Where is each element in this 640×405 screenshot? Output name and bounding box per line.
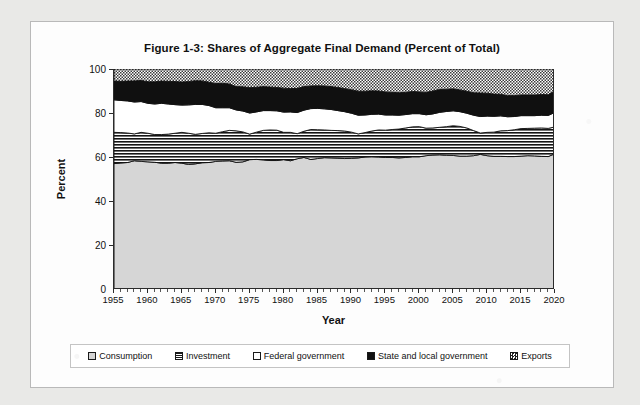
legend-item-consumption[interactable]: Consumption bbox=[88, 351, 152, 361]
x-minor-tick-mark bbox=[269, 289, 270, 292]
x-minor-tick-mark bbox=[378, 289, 379, 292]
legend-item-label: Exports bbox=[521, 351, 552, 361]
x-minor-tick-mark bbox=[262, 289, 263, 292]
x-tick-mark bbox=[317, 289, 318, 293]
x-tick-mark bbox=[452, 289, 453, 293]
x-minor-tick-mark bbox=[228, 289, 229, 292]
x-minor-tick-mark bbox=[459, 289, 460, 292]
stacked-area-series bbox=[114, 69, 554, 289]
y-tick-label: 60 bbox=[95, 152, 106, 163]
x-minor-tick-mark bbox=[534, 289, 535, 292]
x-tick-mark bbox=[147, 289, 148, 293]
x-minor-tick-mark bbox=[432, 289, 433, 292]
x-minor-tick-mark bbox=[507, 289, 508, 292]
y-tick-label: 80 bbox=[95, 108, 106, 119]
x-minor-tick-mark bbox=[255, 289, 256, 292]
x-minor-tick-mark bbox=[405, 289, 406, 292]
x-tick-mark bbox=[554, 289, 555, 293]
x-axis-title: Year bbox=[113, 314, 554, 326]
x-minor-tick-mark bbox=[425, 289, 426, 292]
x-tick-label: 1980 bbox=[272, 294, 293, 305]
y-axis-tick-labels: 020406080100 bbox=[31, 22, 113, 242]
x-minor-tick-mark bbox=[466, 289, 467, 292]
exports-swatch bbox=[510, 352, 518, 360]
legend-item-label: Consumption bbox=[99, 351, 152, 361]
x-minor-tick-mark bbox=[160, 289, 161, 292]
x-tick-mark bbox=[384, 289, 385, 293]
x-minor-tick-mark bbox=[527, 289, 528, 292]
y-tick-mark bbox=[109, 157, 114, 158]
x-minor-tick-mark bbox=[371, 289, 372, 292]
x-minor-tick-mark bbox=[310, 289, 311, 292]
x-tick-mark bbox=[249, 289, 250, 293]
legend-item-label: Investment bbox=[186, 351, 230, 361]
x-minor-tick-mark bbox=[222, 289, 223, 292]
x-tick-label: 1955 bbox=[102, 294, 123, 305]
x-axis-tick-labels: 1955196019651970197519801985199019952000… bbox=[113, 294, 554, 310]
x-minor-tick-mark bbox=[513, 289, 514, 292]
x-minor-tick-mark bbox=[337, 289, 338, 292]
x-minor-tick-mark bbox=[364, 289, 365, 292]
chart-legend: ConsumptionInvestmentFederal governmentS… bbox=[70, 344, 570, 368]
figure-frame: Figure 1-3: Shares of Aggregate Final De… bbox=[30, 21, 614, 388]
x-tick-mark bbox=[520, 289, 521, 293]
x-minor-tick-mark bbox=[439, 289, 440, 292]
y-tick-label: 100 bbox=[89, 64, 106, 75]
y-tick-mark bbox=[109, 69, 114, 70]
area-band-consumption bbox=[114, 154, 554, 289]
x-tick-label: 1970 bbox=[204, 294, 225, 305]
legend-item-state-and-local-government[interactable]: State and local government bbox=[367, 351, 488, 361]
x-tick-mark bbox=[350, 289, 351, 293]
x-minor-tick-mark bbox=[540, 289, 541, 292]
x-minor-tick-mark bbox=[120, 289, 121, 292]
x-minor-tick-mark bbox=[296, 289, 297, 292]
y-tick-mark bbox=[109, 245, 114, 246]
x-minor-tick-mark bbox=[289, 289, 290, 292]
legend-item-federal-government[interactable]: Federal government bbox=[253, 351, 345, 361]
x-minor-tick-mark bbox=[235, 289, 236, 292]
legend-item-exports[interactable]: Exports bbox=[510, 351, 552, 361]
x-tick-label: 2020 bbox=[543, 294, 564, 305]
x-minor-tick-mark bbox=[133, 289, 134, 292]
x-minor-tick-mark bbox=[140, 289, 141, 292]
x-minor-tick-mark bbox=[167, 289, 168, 292]
y-tick-label: 40 bbox=[95, 196, 106, 207]
legend-item-investment[interactable]: Investment bbox=[175, 351, 230, 361]
plot-area bbox=[113, 69, 554, 289]
x-tick-label: 2015 bbox=[509, 294, 530, 305]
state-and-local-government-swatch bbox=[367, 352, 375, 360]
x-minor-tick-mark bbox=[201, 289, 202, 292]
x-minor-tick-mark bbox=[208, 289, 209, 292]
x-minor-tick-mark bbox=[344, 289, 345, 292]
x-minor-tick-mark bbox=[479, 289, 480, 292]
x-minor-tick-mark bbox=[398, 289, 399, 292]
x-minor-tick-mark bbox=[323, 289, 324, 292]
x-tick-mark bbox=[181, 289, 182, 293]
x-minor-tick-mark bbox=[330, 289, 331, 292]
consumption-swatch bbox=[88, 352, 96, 360]
x-minor-tick-mark bbox=[276, 289, 277, 292]
federal-government-swatch bbox=[253, 352, 261, 360]
legend-item-label: Federal government bbox=[264, 351, 345, 361]
x-minor-tick-mark bbox=[493, 289, 494, 292]
x-minor-tick-mark bbox=[242, 289, 243, 292]
x-minor-tick-mark bbox=[473, 289, 474, 292]
x-tick-mark bbox=[418, 289, 419, 293]
x-tick-label: 1995 bbox=[374, 294, 395, 305]
x-tick-mark bbox=[486, 289, 487, 293]
y-tick-label: 0 bbox=[100, 284, 106, 295]
x-minor-tick-mark bbox=[547, 289, 548, 292]
x-tick-label: 2000 bbox=[408, 294, 429, 305]
y-tick-mark bbox=[109, 113, 114, 114]
x-minor-tick-mark bbox=[391, 289, 392, 292]
x-minor-tick-mark bbox=[303, 289, 304, 292]
x-minor-tick-mark bbox=[188, 289, 189, 292]
x-tick-label: 2010 bbox=[476, 294, 497, 305]
x-tick-label: 1985 bbox=[306, 294, 327, 305]
x-tick-label: 1960 bbox=[136, 294, 157, 305]
x-tick-label: 1975 bbox=[238, 294, 259, 305]
x-tick-label: 1990 bbox=[340, 294, 361, 305]
investment-swatch bbox=[175, 352, 183, 360]
x-minor-tick-mark bbox=[194, 289, 195, 292]
x-minor-tick-mark bbox=[500, 289, 501, 292]
